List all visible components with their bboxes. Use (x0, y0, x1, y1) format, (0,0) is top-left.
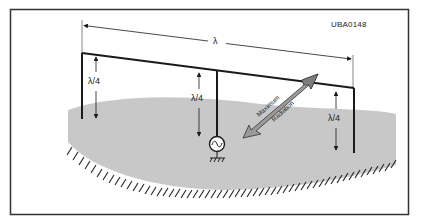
quarter-wave-label-left: λ/4 (88, 76, 100, 86)
diagram-canvas: Maximum Radiation (0, 0, 426, 223)
quarter-wave-label-center: λ/4 (191, 93, 203, 103)
ground-surface (68, 97, 396, 190)
figure-id-label: UBA0148 (331, 20, 367, 29)
ac-source-icon (210, 137, 225, 152)
wavelength-label: λ (213, 36, 218, 46)
quarter-wave-label-right: λ/4 (328, 113, 340, 123)
